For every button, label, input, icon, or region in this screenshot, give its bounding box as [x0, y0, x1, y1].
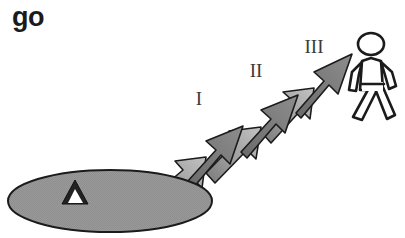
arrow-3 — [262, 54, 352, 143]
oval-ground — [8, 170, 212, 232]
figure-root: go — [0, 0, 405, 238]
arrow-label-1: I — [196, 88, 202, 109]
arrow-3-head — [296, 54, 352, 118]
pedestrian-figure — [349, 33, 396, 120]
arrow-2-head — [241, 95, 298, 158]
scene-illustration: I II III — [0, 0, 405, 238]
ground-ellipse — [8, 170, 212, 232]
pedestrian-head — [358, 33, 384, 55]
arrow-label-2: II — [250, 60, 263, 81]
arrow-label-3: III — [305, 36, 324, 57]
